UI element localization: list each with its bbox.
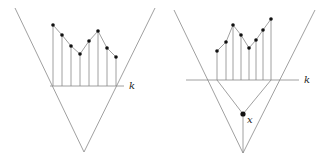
left-data-point [96, 29, 100, 33]
diagram: kkx k k x [0, 0, 326, 162]
left-label-k: k [129, 80, 135, 91]
right-data-point [247, 46, 251, 50]
right-label-k: k [304, 74, 310, 85]
right-data-point [269, 17, 273, 21]
left-data-point [87, 39, 91, 43]
left-data-point [51, 23, 55, 27]
left-data-point [105, 46, 109, 50]
right-cone-left [217, 80, 243, 114]
right-v-shape [174, 10, 315, 153]
right-data-point [239, 33, 243, 37]
left-data-point [69, 44, 73, 48]
diagram-canvas: kkx [0, 0, 326, 162]
apex-point-x [240, 111, 245, 116]
right-cone-right [243, 80, 271, 114]
left-data-path [53, 25, 116, 57]
right-data-point [254, 38, 258, 42]
right-data-point [215, 49, 219, 53]
left-data-point [114, 55, 118, 59]
right-data-point [224, 40, 228, 44]
right-data-point [261, 28, 265, 32]
left-data-point [78, 52, 82, 56]
label-x: x [247, 114, 253, 125]
left-data-point [60, 33, 64, 37]
right-data-point [231, 23, 235, 27]
